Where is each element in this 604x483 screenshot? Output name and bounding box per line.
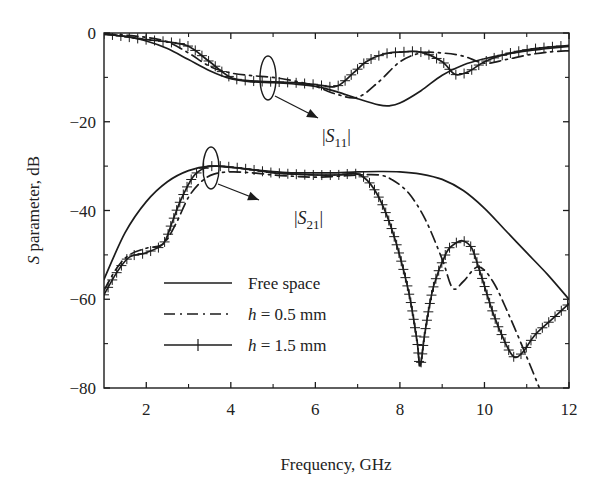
x-tick-label: 12 bbox=[561, 400, 578, 419]
plot-series bbox=[99, 29, 573, 388]
x-tick-label: 6 bbox=[311, 400, 320, 419]
y-tick-label: −40 bbox=[69, 202, 96, 221]
legend: Free spaceh = 0.5 mmh = 1.5 mm bbox=[164, 274, 327, 355]
x-tick-label: 4 bbox=[227, 400, 236, 419]
series-line bbox=[104, 172, 539, 388]
y-axis-title: S parameter, dB bbox=[24, 156, 43, 264]
legend-label: Free space bbox=[248, 274, 320, 293]
series-line bbox=[104, 166, 569, 366]
y-tick-label: 0 bbox=[88, 24, 97, 43]
y-tick-label: −60 bbox=[69, 290, 96, 309]
series-h-1-5-mm-s11- bbox=[99, 29, 569, 92]
s-parameter-chart: 246810120−20−40−60−80 |S11||S21| Free sp… bbox=[0, 0, 604, 483]
y-tick-label: −80 bbox=[69, 379, 96, 398]
arrow-head-icon bbox=[247, 192, 259, 200]
series-h-1-5-mm-s21- bbox=[99, 161, 573, 367]
x-axis-title: Frequency, GHz bbox=[280, 455, 392, 474]
legend-item-1: h = 0.5 mm bbox=[164, 305, 327, 324]
series-h-0-5-mm-s21- bbox=[104, 172, 539, 388]
axes-frame: 246810120−20−40−60−80 bbox=[69, 24, 577, 419]
x-tick-label: 8 bbox=[396, 400, 405, 419]
legend-item-0: Free space bbox=[164, 274, 320, 293]
x-tick-label: 2 bbox=[142, 400, 151, 419]
legend-label: h = 1.5 mm bbox=[248, 336, 327, 355]
annotation-label-S21: |S21| bbox=[294, 208, 323, 232]
annotation-label-S11: |S11| bbox=[322, 126, 351, 150]
legend-label: h = 0.5 mm bbox=[248, 305, 327, 324]
series-free-space-s21- bbox=[104, 166, 569, 299]
x-tick-label: 10 bbox=[476, 400, 493, 419]
series-line bbox=[104, 166, 569, 299]
y-tick-label: −20 bbox=[69, 113, 96, 132]
legend-item-2: h = 1.5 mm bbox=[164, 336, 327, 355]
